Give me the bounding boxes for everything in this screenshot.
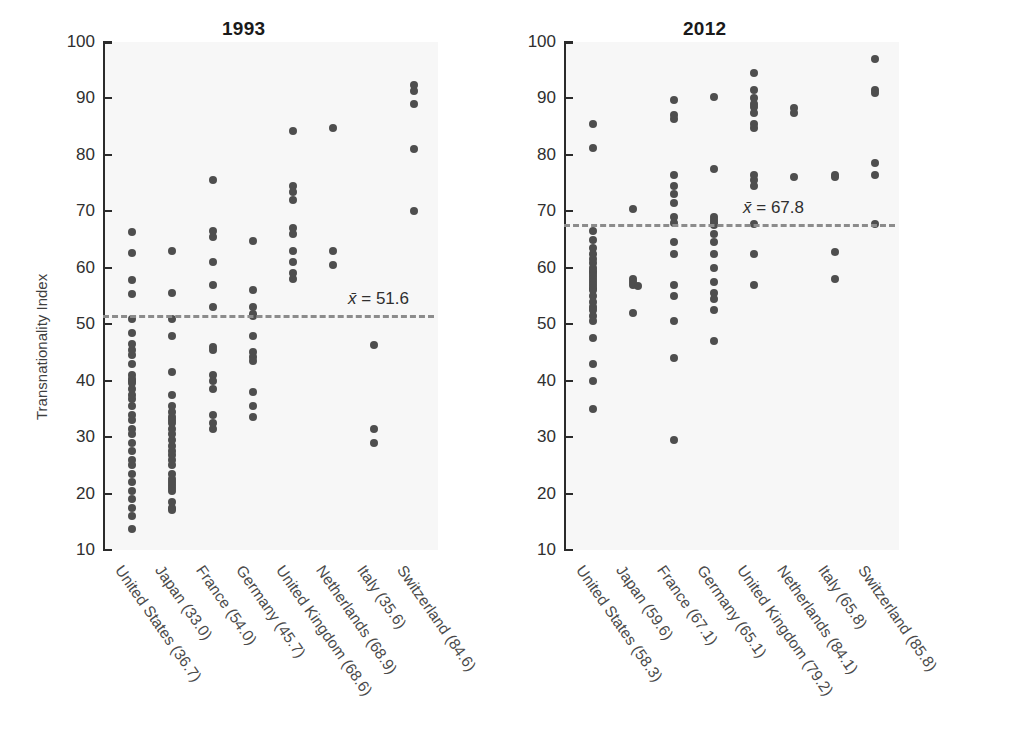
data-point [589,120,597,128]
data-point [670,281,678,289]
data-point [128,461,136,469]
data-point [128,360,136,368]
data-point [128,430,136,438]
data-point [670,436,678,444]
y-tick-mark [103,210,112,212]
data-point [329,261,337,269]
data-point [209,385,217,393]
data-point [831,275,839,283]
data-point [629,309,637,317]
data-point [710,165,718,173]
data-point [128,447,136,455]
data-point [289,188,297,196]
data-point [710,306,718,314]
data-point [289,230,297,238]
data-point [128,478,136,486]
data-point [128,470,136,478]
data-point [209,425,217,433]
data-point [670,182,678,190]
data-point [410,87,418,95]
data-point [410,100,418,108]
mean-annotation-1993: x̄ = 51.6 [348,289,409,309]
data-point [128,495,136,503]
data-point [329,247,337,255]
data-point [589,360,597,368]
y-tick-mark [564,436,573,438]
data-point [209,377,217,385]
data-point [670,354,678,362]
data-point [209,233,217,241]
y-axis-title: Transnationality Index [33,274,50,420]
mean-annotation-2012: x̄ = 67.8 [743,198,804,218]
y-tick-mark [564,41,573,43]
data-point [871,89,879,97]
mean-value-right: = 67.8 [756,198,804,217]
data-point [128,487,136,495]
y-tick-mark [103,267,112,269]
y-tick-mark [103,549,112,551]
data-point [168,506,176,514]
y-tick-label: 90 [516,88,556,108]
y-tick-label: 100 [516,32,556,52]
data-point [168,391,176,399]
data-point [750,124,758,132]
data-point [128,351,136,359]
data-point [670,199,678,207]
panel-title-2012: 2012 [683,18,726,40]
mean-line-2012 [564,224,895,227]
data-point [670,96,678,104]
data-point [589,227,597,235]
mean-line-1993 [103,315,434,318]
data-point [168,332,176,340]
data-point [128,504,136,512]
panel-title-1993: 1993 [222,18,265,40]
data-point [209,281,217,289]
data-point [128,329,136,337]
data-point [750,109,758,117]
data-point [249,332,257,340]
data-point [710,238,718,246]
data-point [128,290,136,298]
data-point [289,196,297,204]
data-point [209,346,217,354]
data-point [589,377,597,385]
y-tick-mark [564,210,573,212]
data-point [249,402,257,410]
data-point [790,109,798,117]
data-point [249,413,257,421]
data-point [750,69,758,77]
y-tick-label: 10 [55,540,95,560]
data-point [670,115,678,123]
data-point [871,55,879,63]
data-point [370,439,378,447]
data-point [209,411,217,419]
plot-area-2012 [566,42,899,550]
y-tick-label: 30 [516,427,556,447]
data-point [710,264,718,272]
y-tick-mark [103,493,112,495]
data-point [670,238,678,246]
data-point [750,281,758,289]
data-point [168,368,176,376]
y-tick-label: 90 [55,88,95,108]
y-tick-mark [564,549,573,551]
data-point [249,237,257,245]
y-axis-spine-left [103,42,105,550]
data-point [128,402,136,410]
data-point [670,250,678,258]
data-point [710,295,718,303]
y-tick-mark [564,323,573,325]
data-point [670,190,678,198]
data-point [710,250,718,258]
data-point [589,144,597,152]
data-point [831,248,839,256]
data-point [329,124,337,132]
data-point [871,159,879,167]
y-tick-mark [103,154,112,156]
data-point [209,258,217,266]
y-tick-label: 50 [55,314,95,334]
y-tick-label: 40 [516,371,556,391]
data-point [289,247,297,255]
data-point [168,461,176,469]
data-point [710,230,718,238]
